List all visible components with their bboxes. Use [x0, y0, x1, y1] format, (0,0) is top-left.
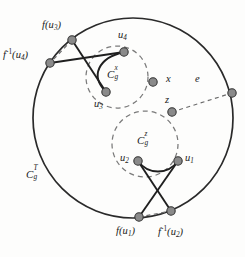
- label-u2: u2: [120, 153, 129, 165]
- label-e: e: [195, 74, 200, 85]
- edge-u2-finvu2: [138, 161, 171, 211]
- node-finv-u4: [46, 59, 54, 67]
- node-f-u1: [135, 213, 143, 221]
- label-u4: u4: [118, 30, 127, 42]
- node-u1: [174, 157, 182, 165]
- node-e-endpoint: [228, 89, 236, 97]
- node-z: [168, 108, 176, 116]
- node-f-u3: [68, 36, 76, 44]
- label-f-u3: f(u3): [42, 20, 61, 32]
- node-finv-u2: [167, 207, 175, 215]
- label-x: x: [166, 74, 171, 85]
- node-group: [46, 36, 236, 221]
- edge-e-dashed: [172, 93, 232, 112]
- label-finv-u2: f-1(u2): [158, 226, 183, 239]
- node-u4: [120, 48, 128, 56]
- label-cg-z: Czg: [137, 133, 151, 146]
- node-x: [149, 78, 157, 86]
- node-u3: [102, 88, 110, 96]
- label-finv-u4: f-1(u4): [3, 49, 28, 62]
- figure-root: f(u3) f-1(u4) u4 u3 x z e u2 u1 f(u1) f-…: [0, 0, 245, 257]
- label-u1: u1: [185, 153, 194, 165]
- outer-curve-cg-t: [33, 18, 233, 218]
- label-z: z: [165, 95, 169, 106]
- node-u2: [134, 157, 142, 165]
- label-f-u1: f(u1): [116, 226, 135, 238]
- label-u3: u3: [94, 99, 103, 111]
- label-cg-t: CTg: [26, 167, 40, 180]
- label-cg-x: Cxg: [107, 67, 121, 80]
